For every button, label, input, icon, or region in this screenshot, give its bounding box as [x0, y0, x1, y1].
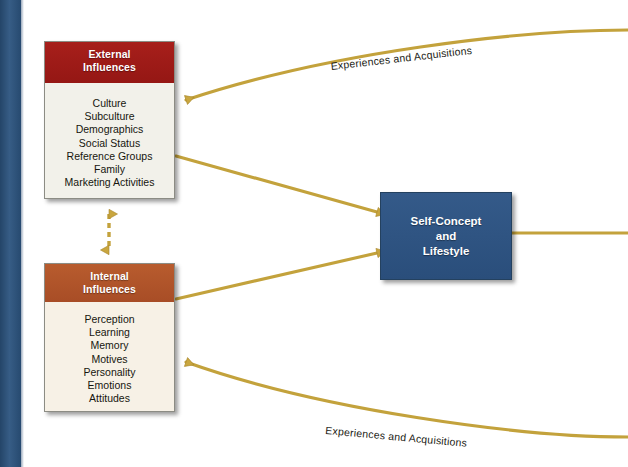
list-item: Demographics: [45, 123, 174, 136]
list-item: Motives: [45, 353, 174, 366]
list-item: Marketing Activities: [45, 176, 174, 189]
list-item: Subculture: [45, 110, 174, 123]
self-concept-line-2: and: [411, 229, 482, 244]
internal-influences-header-line-1: Internal: [47, 270, 172, 283]
external-influences-header-line-1: External: [47, 48, 172, 61]
external-influences-header-line-2: Influences: [47, 61, 172, 74]
external-influences-list: Culture Subculture Demographics Social S…: [45, 83, 174, 189]
internal-influences-header-line-2: Influences: [47, 283, 172, 296]
page-spine-bar: [0, 0, 21, 467]
internal-influences-card[interactable]: Internal Influences Perception Learning …: [44, 263, 175, 412]
self-concept-line-1: Self-Concept: [411, 214, 482, 229]
flow-label-experiences-acquisitions-bottom: Experiences and Acquisitions: [325, 424, 468, 449]
list-item: Memory: [45, 339, 174, 352]
list-item: Perception: [45, 313, 174, 326]
feedback-curve-bottom: [186, 362, 628, 437]
list-item: Family: [45, 163, 174, 176]
arrow-internal-to-self-concept: [176, 253, 377, 299]
list-item: Culture: [45, 97, 174, 110]
external-influences-header: External Influences: [45, 42, 174, 83]
list-item: Emotions: [45, 379, 174, 392]
feedback-curve-top: [186, 30, 628, 100]
list-item: Reference Groups: [45, 150, 174, 163]
flow-label-experiences-acquisitions-top: Experiences and Acquisitions: [330, 44, 473, 72]
list-item: Social Status: [45, 137, 174, 150]
internal-influences-header: Internal Influences: [45, 264, 174, 302]
list-item: Learning: [45, 326, 174, 339]
external-influences-card[interactable]: External Influences Culture Subculture D…: [44, 41, 175, 199]
self-concept-label: Self-Concept and Lifestyle: [411, 214, 482, 259]
arrow-external-to-self-concept: [176, 156, 377, 212]
self-concept-line-3: Lifestyle: [411, 244, 482, 259]
page-spine-edge: [21, 0, 24, 467]
self-concept-and-lifestyle-card[interactable]: Self-Concept and Lifestyle: [380, 192, 512, 280]
diagram-canvas: External Influences Culture Subculture D…: [0, 0, 628, 467]
internal-influences-list: Perception Learning Memory Motives Perso…: [45, 302, 174, 405]
list-item: Personality: [45, 366, 174, 379]
list-item: Attitudes: [45, 392, 174, 405]
